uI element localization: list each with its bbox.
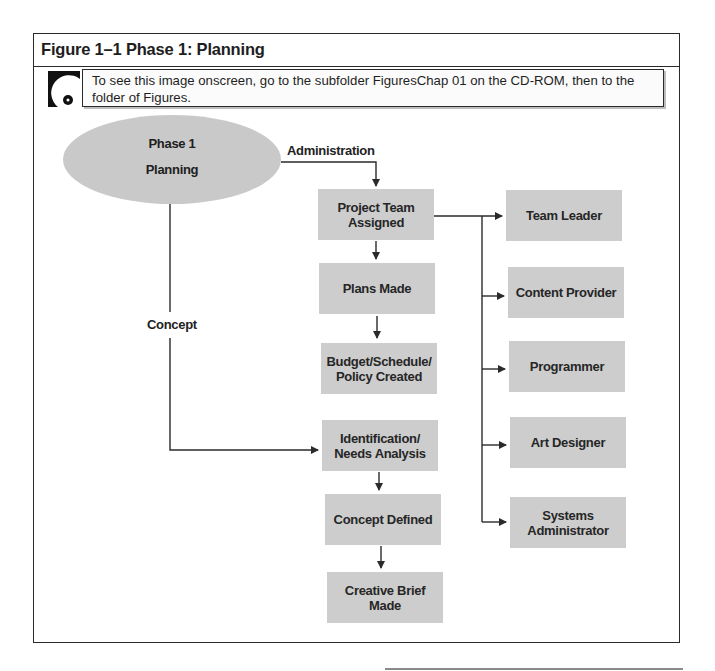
root-line-2: Planning: [63, 162, 281, 177]
node-creative-brief-made: Creative Brief Made: [327, 572, 443, 623]
node-project-team-assigned: Project Team Assigned: [318, 189, 434, 240]
node-concept-defined: Concept Defined: [325, 494, 441, 545]
page-rule: [385, 668, 683, 670]
node-systems-administrator: Systems Administrator: [510, 497, 626, 548]
phase-1-planning-node: Phase 1 Planning: [63, 115, 281, 204]
concept-label: Concept: [147, 317, 197, 332]
node-programmer: Programmer: [509, 341, 625, 392]
node-budget-schedule-policy: Budget/Schedule/ Policy Created: [321, 343, 437, 394]
connector-lines: [0, 0, 715, 671]
administration-label: Administration: [287, 143, 375, 158]
node-team-leader: Team Leader: [506, 190, 622, 241]
root-line-1: Phase 1: [63, 136, 281, 151]
node-identification-needs-analysis: Identification/ Needs Analysis: [322, 420, 438, 471]
node-plans-made: Plans Made: [319, 263, 435, 314]
node-art-designer: Art Designer: [510, 417, 626, 468]
node-content-provider: Content Provider: [508, 267, 624, 318]
